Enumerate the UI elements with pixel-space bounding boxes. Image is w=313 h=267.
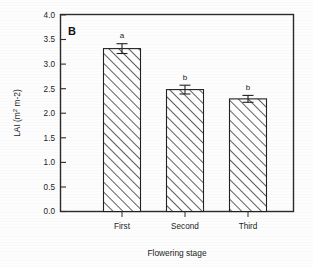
y-axis: 0.0 0.5 1.0 1.5 2.0 2.5 3.0 3.5 4.0 [44, 11, 66, 217]
svg-text:LAI (m2 m-2): LAI (m2 m-2) [11, 89, 22, 137]
x-axis-title: Flowering stage [147, 248, 206, 258]
panel-label: B [68, 25, 76, 37]
y-tick-group [61, 15, 67, 212]
significance-label-third: b [246, 83, 251, 92]
y-tick-label-7: 3.5 [44, 35, 56, 44]
bar-first[interactable] [104, 49, 141, 212]
bar-group-first[interactable]: a [104, 31, 141, 212]
significance-label-second: b [183, 73, 188, 82]
y-tick-label-3: 1.5 [44, 134, 56, 143]
x-axis: First Second Third [114, 212, 258, 232]
bar-group-second[interactable]: b [167, 73, 204, 212]
y-tick-label-1: 0.5 [44, 183, 56, 192]
y-tick-label-0: 0.0 [44, 207, 56, 216]
x-tick-label-first: First [114, 222, 131, 231]
figure-panel-b: 0.0 0.5 1.0 1.5 2.0 2.5 3.0 3.5 4.0 LAI … [0, 0, 313, 267]
bar-group-third[interactable]: b [230, 83, 267, 212]
x-tick-label-second: Second [171, 222, 199, 231]
y-axis-title-suffix: m-2) [12, 89, 22, 109]
bar-second[interactable] [167, 90, 204, 212]
bar-third[interactable] [230, 99, 267, 212]
y-tick-label-5: 2.5 [44, 85, 56, 94]
x-tick-label-third: Third [239, 222, 258, 231]
y-tick-label-4: 2.0 [44, 109, 56, 118]
y-tick-label-2: 1.0 [44, 158, 56, 167]
y-tick-label-6: 3.0 [44, 60, 56, 69]
y-axis-title-prefix: LAI (m [12, 112, 22, 137]
bar-chart-svg: 0.0 0.5 1.0 1.5 2.0 2.5 3.0 3.5 4.0 LAI … [0, 0, 313, 267]
y-tick-label-8: 4.0 [44, 11, 56, 20]
significance-label-first: a [120, 31, 125, 40]
y-axis-title: LAI (m2 m-2) [11, 89, 22, 137]
